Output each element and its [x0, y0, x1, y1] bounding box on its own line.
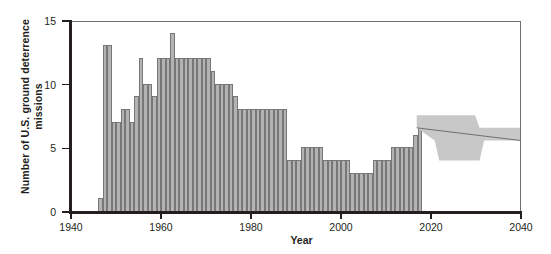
- chart-figure: Number of U.S. ground deterrence mission…: [0, 0, 551, 254]
- y-axis-tick-label: 15: [14, 16, 56, 27]
- y-axis-title: Number of U.S. ground deterrence mission…: [19, 17, 44, 197]
- x-axis-title: Year: [0, 234, 551, 246]
- x-axis-tick: [520, 213, 522, 219]
- x-axis-tick: [430, 213, 432, 219]
- x-axis-tick: [70, 213, 72, 219]
- y-axis-tick: [62, 148, 69, 150]
- x-axis-tick-label: 2040: [491, 222, 551, 233]
- x-axis-tick: [340, 213, 342, 219]
- y-axis-tick: [62, 211, 69, 213]
- x-axis-line: [69, 211, 522, 214]
- y-axis-tick-label: 0: [14, 207, 56, 218]
- plot-area: [71, 21, 521, 212]
- x-axis-tick: [160, 213, 162, 219]
- x-axis-tick-label: 1960: [131, 222, 191, 233]
- x-axis-tick-label: 2020: [401, 222, 461, 233]
- y-axis-tick: [62, 84, 69, 86]
- y-axis-tick: [62, 20, 69, 22]
- x-axis-tick-label: 2000: [311, 222, 371, 233]
- projection-band-polygon: [417, 115, 520, 160]
- y-axis-line: [69, 20, 72, 213]
- x-axis-tick-label: 1940: [41, 222, 101, 233]
- x-axis-tick: [250, 213, 252, 219]
- y-axis-tick-label: 10: [14, 80, 56, 91]
- x-axis-tick-label: 1980: [221, 222, 281, 233]
- projection-band: [71, 22, 520, 211]
- y-axis-tick-label: 5: [14, 143, 56, 154]
